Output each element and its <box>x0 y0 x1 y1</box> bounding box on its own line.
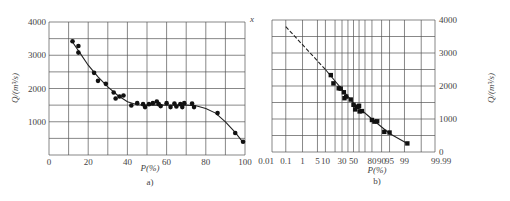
panel-b-xtick: 5 <box>315 156 320 166</box>
data-point <box>329 73 333 77</box>
data-point <box>158 104 163 109</box>
panel-a-caption: a) <box>147 177 154 187</box>
panel-b-caption: b) <box>373 176 381 186</box>
panel-b-ytick: 3000 <box>439 48 458 58</box>
panel-b-ticks: 400030002000100000.010.11510305080909599… <box>258 15 457 166</box>
data-point <box>375 119 379 123</box>
panel-a-grid <box>49 22 245 155</box>
data-point <box>360 109 364 113</box>
panel-a-xtick: 40 <box>123 157 133 167</box>
data-point <box>168 105 173 110</box>
panel-b-chart: 400030002000100000.010.11510305080909599… <box>258 15 496 186</box>
panel-a-xtick: 80 <box>201 157 211 167</box>
data-point <box>76 50 81 55</box>
data-point <box>331 81 335 85</box>
panel-a-xtick: 0 <box>47 157 52 167</box>
panel-a-xtick: 100 <box>238 157 252 167</box>
data-point <box>241 139 246 144</box>
panel-a-xtick: 60 <box>162 157 172 167</box>
chart-canvas: 4000300020001000020406080100 Q/(m³/s) P(… <box>0 0 510 201</box>
data-point <box>382 130 386 134</box>
data-point <box>76 44 81 49</box>
panel-b-curve-line <box>325 70 407 144</box>
panel-b-data-points <box>329 73 410 146</box>
panel-b-xtick: 50 <box>349 156 359 166</box>
data-point <box>182 101 187 106</box>
data-point <box>344 94 348 98</box>
panel-b-xtick: 0.01 <box>258 156 274 166</box>
panel-b-dashed-extrapolation <box>286 27 326 70</box>
data-point <box>104 82 109 87</box>
panel-b-ytick: 4000 <box>439 15 458 25</box>
data-point <box>215 111 220 116</box>
panel-a-ticks: 4000300020001000020406080100 <box>28 17 252 167</box>
panel-a-data-points <box>70 39 245 144</box>
panel-b-grid <box>272 20 435 152</box>
panel-b-y-axis-label: Q/(m³/s) <box>486 73 496 103</box>
data-point <box>342 90 346 94</box>
data-point <box>129 103 134 108</box>
panel-a-ytick: 4000 <box>28 17 47 27</box>
data-point <box>405 141 409 145</box>
panel-a-chart: 4000300020001000020406080100 Q/(m³/s) P(… <box>10 14 254 187</box>
panel-b-ytick: 2000 <box>439 81 458 91</box>
data-point <box>357 104 361 108</box>
data-point <box>151 101 156 106</box>
data-point <box>233 131 238 136</box>
panel-a-ytick: 2000 <box>28 84 47 94</box>
data-point <box>121 93 126 98</box>
data-point <box>174 104 179 109</box>
data-point <box>70 39 75 44</box>
data-point <box>117 94 122 99</box>
data-point <box>96 79 101 84</box>
panel-b-xtick: 10 <box>321 156 331 166</box>
data-point <box>387 130 391 134</box>
data-point <box>147 102 152 107</box>
panel-a-ytick: 1000 <box>28 117 47 127</box>
panel-a-x-axis-label: P(%) <box>140 163 160 173</box>
panel-a-corner-mark: x <box>249 14 254 24</box>
data-point <box>164 101 169 106</box>
data-point <box>349 97 353 101</box>
panel-b-xtick: 0.1 <box>280 156 291 166</box>
panel-b-xtick: 99.99 <box>431 156 452 166</box>
panel-a-ytick: 3000 <box>28 50 47 60</box>
data-point <box>111 90 116 95</box>
panel-a-curve-line <box>73 42 244 142</box>
data-point <box>92 71 97 76</box>
panel-b-fit-curve <box>286 27 408 144</box>
data-point <box>143 105 148 110</box>
data-point <box>113 96 118 101</box>
panel-b-x-axis-label: P(%) <box>367 165 387 175</box>
panel-b-xtick: 1 <box>300 156 305 166</box>
panel-a-xtick: 20 <box>84 157 94 167</box>
panel-b-xtick: 99 <box>400 156 410 166</box>
data-point <box>192 105 197 110</box>
panel-b-ytick: 1000 <box>439 114 458 124</box>
data-point <box>180 105 185 110</box>
panel-a-fit-curve <box>73 42 244 142</box>
data-point <box>135 101 140 106</box>
panel-b-xtick: 30 <box>338 156 348 166</box>
panel-a-y-axis-label: Q/(m³/s) <box>10 73 20 103</box>
